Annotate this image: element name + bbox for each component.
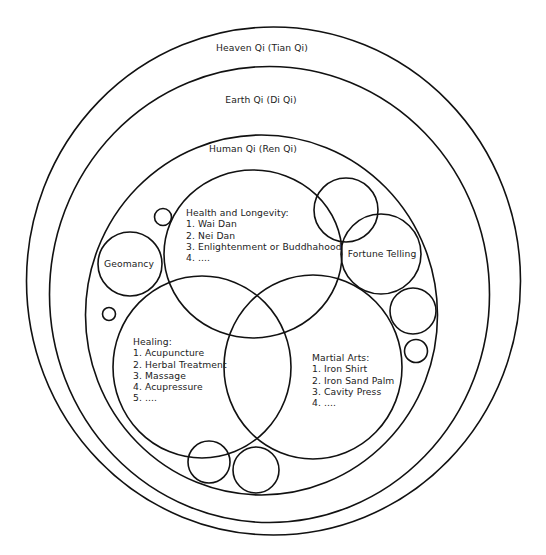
- martial-item: 2. Iron Sand Palm: [312, 375, 394, 386]
- human-qi-circle: [86, 135, 438, 495]
- earth-qi-label: Earth Qi (Di Qi): [225, 94, 296, 105]
- health-item: 4. ....: [186, 252, 342, 263]
- unlabeled-circle-bottom-right: [233, 447, 279, 493]
- healing-item: 2. Herbal Treatment: [133, 359, 227, 370]
- healing-title: Healing:: [133, 336, 227, 347]
- healing-text: Healing: 1. Acupuncture 2. Herbal Treatm…: [133, 336, 227, 404]
- unlabeled-circle-right: [390, 288, 436, 334]
- healing-item: 4. Acupressure: [133, 381, 227, 392]
- healing-item: 3. Massage: [133, 370, 227, 381]
- health-item: 3. Enlightenment or Buddhahood: [186, 241, 342, 252]
- fortune-telling-label: Fortune Telling: [348, 248, 417, 259]
- martial-item: 1. Iron Shirt: [312, 363, 394, 374]
- martial-arts-title: Martial Arts:: [312, 352, 394, 363]
- human-qi-label: Human Qi (Ren Qi): [209, 143, 297, 154]
- martial-arts-text: Martial Arts: 1. Iron Shirt 2. Iron Sand…: [312, 352, 394, 408]
- health-longevity-title: Health and Longevity:: [186, 207, 342, 218]
- health-item: 1. Wai Dan: [186, 218, 342, 229]
- heaven-qi-label: Heaven Qi (Tian Qi): [216, 42, 308, 53]
- martial-item: 3. Cavity Press: [312, 386, 394, 397]
- martial-item: 4. ....: [312, 397, 394, 408]
- health-item: 2. Nei Dan: [186, 230, 342, 241]
- health-longevity-text: Health and Longevity: 1. Wai Dan 2. Nei …: [186, 207, 342, 263]
- healing-item: 5. ....: [133, 392, 227, 403]
- unlabeled-small-circle-right: [405, 340, 428, 363]
- unlabeled-small-circle-top-left: [155, 209, 172, 226]
- healing-item: 1. Acupuncture: [133, 347, 227, 358]
- unlabeled-circle-bottom-left: [188, 441, 230, 483]
- diagram-canvas: [0, 0, 546, 555]
- geomancy-label: Geomancy: [104, 258, 154, 269]
- unlabeled-tiny-circle-left: [103, 308, 116, 321]
